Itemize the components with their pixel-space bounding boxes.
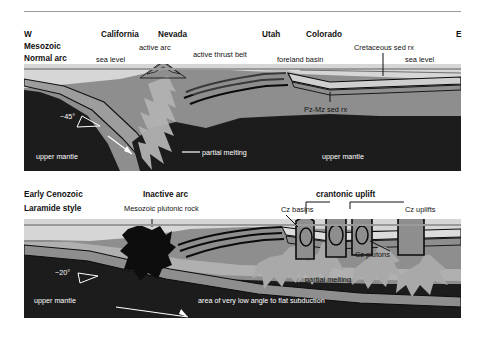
label-state-colorado: Colorado [306,30,342,39]
label-upper-mantle-right: upper mantle [322,152,364,161]
label-stage-line1: Mesozoic [24,42,61,51]
figure-page: W Mesozoic Normal arc California Nevada … [0,0,485,343]
label-foreland-basin: foreland basin [277,55,323,64]
label-partial-melting-2: partial melting [305,275,351,284]
cross-section-mesozoic: W Mesozoic Normal arc California Nevada … [0,24,485,174]
label-cretaceous-sed-rx: Cretaceous sed rx [354,43,414,52]
label-cz-plutons: Cz plutons [355,250,390,259]
label-flat-subduction: area of very low angle to flat subductio… [198,296,325,305]
label-cz-uplifts: Cz uplifts [405,205,436,214]
panel-early-cenozoic-laramide: Early Cenozoic Laramide style Inactive a… [0,185,485,340]
label-west: W [24,30,32,39]
label-upper-mantle-2: upper mantle [34,296,76,305]
label-sea-level-left: sea level [96,55,126,64]
label-pz-mz-sed-rx: Pz-Mz sed rx [304,105,347,114]
label-stage2-line2: Laramide style [24,204,82,213]
label-sea-level-right: sea level [405,55,435,64]
label-state-california: California [101,30,139,39]
panel-mesozoic-normal-arc: W Mesozoic Normal arc California Nevada … [0,24,485,174]
label-east: E [456,30,462,39]
cross-section-laramide: Early Cenozoic Laramide style Inactive a… [0,185,485,340]
label-cratonic-uplift: crantonic uplift [316,190,375,199]
label-subduction-angle-20: ~20° [55,268,70,277]
label-active-arc: active arc [139,43,171,52]
label-inactive-arc: Inactive arc [143,190,189,199]
label-subduction-angle-45: ~45° [60,112,75,121]
label-partial-melting: partial melting [202,148,247,157]
label-cz-basins: Cz basins [281,205,314,214]
label-upper-mantle-left: upper mantle [36,152,78,161]
label-active-thrust-belt: active thrust belt [193,50,247,59]
label-state-utah: Utah [262,30,280,39]
label-stage2-line1: Early Cenozoic [24,190,83,199]
label-state-nevada: Nevada [158,30,188,39]
label-mesozoic-plutonic-rock: Mesozoic plutonic rock [124,204,199,213]
label-stage-line2: Normal arc [24,54,67,63]
top-divider-rule [24,11,461,12]
